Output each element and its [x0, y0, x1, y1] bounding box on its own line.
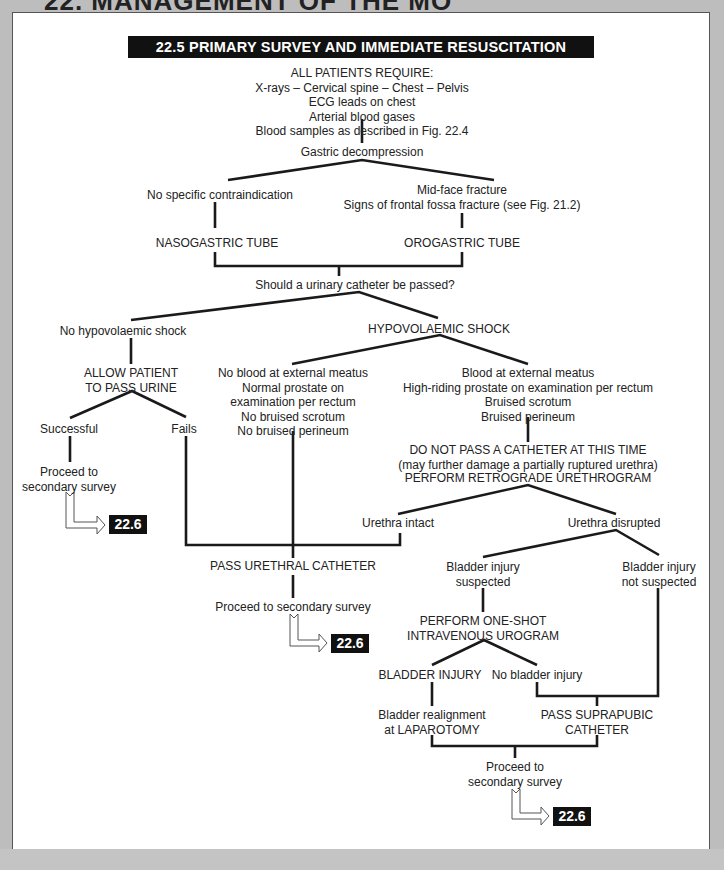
hollow-arrow-icon	[512, 789, 549, 825]
text-line: Blood samples as described in Fig. 22.4	[255, 124, 468, 139]
text-line: Arterial blood gases	[255, 110, 468, 125]
text-line: not suspected	[622, 575, 697, 590]
text-line: INTRAVENOUS UROGRAM	[407, 629, 559, 644]
midface-fracture: Mid-face fracture Signs of frontal fossa…	[344, 183, 581, 212]
text-line: Bruised scrotum	[403, 395, 653, 410]
successful: Successful	[40, 422, 98, 437]
bladder-injury-suspected: Bladder injury suspected	[446, 560, 519, 589]
gastric-decompression: Gastric decompression	[301, 145, 424, 160]
pass-urethral-catheter: PASS URETHRAL CATHETER	[210, 559, 376, 574]
ref-22-6-link[interactable]: 22.6	[553, 807, 591, 826]
proceed-secondary-survey-2: Proceed to secondary survey	[215, 600, 370, 615]
text-line: secondary survey	[468, 775, 562, 790]
no-specific-contraindication: No specific contraindication	[147, 188, 293, 203]
fails: Fails	[171, 422, 196, 437]
text-line: Signs of frontal fossa fracture (see Fig…	[344, 198, 581, 213]
urethra-intact: Urethra intact	[362, 516, 434, 531]
hypovolaemic-shock: HYPOVOLAEMIC SHOCK	[368, 322, 510, 337]
text-line: ALL PATIENTS REQUIRE:	[255, 66, 468, 81]
no-blood-criteria: No blood at external meatus Normal prost…	[218, 366, 368, 439]
text-line: Mid-face fracture	[344, 183, 581, 198]
proceed-secondary-survey-3: Proceed to secondary survey	[468, 760, 562, 789]
pass-suprapubic-catheter: PASS SUPRAPUBIC CATHETER	[541, 708, 653, 737]
text-line: X-rays – Cervical spine – Chest – Pelvis	[255, 81, 468, 96]
text-line: DO NOT PASS A CATHETER AT THIS TIME	[398, 443, 657, 458]
bladder-realignment-laparotomy: Bladder realignment at LAPAROTOMY	[378, 708, 485, 737]
text-line: Blood at external meatus	[403, 366, 653, 381]
ref-22-6-link[interactable]: 22.6	[109, 515, 147, 534]
allow-patient-pass-urine: ALLOW PATIENT TO PASS URINE	[84, 366, 178, 395]
text-line: Bladder injury	[446, 560, 519, 575]
nasogastric-tube: NASOGASTRIC TUBE	[156, 236, 278, 251]
text-line: PERFORM ONE-SHOT	[407, 614, 559, 629]
text-line: suspected	[446, 575, 519, 590]
text-line: High-riding prostate on examination per …	[403, 381, 653, 396]
no-bladder-injury: No bladder injury	[492, 668, 583, 683]
text-line: Normal prostate on	[218, 381, 368, 396]
no-hypovolaemic-shock: No hypovolaemic shock	[60, 324, 187, 339]
bladder-injury: BLADDER INJURY	[378, 668, 481, 683]
text-line: PASS SUPRAPUBIC	[541, 708, 653, 723]
text-line: Proceed to	[22, 465, 116, 480]
text-line: No bruised scrotum	[218, 410, 368, 425]
text-line: (may further damage a partially ruptured…	[398, 458, 657, 473]
text-line: ECG leads on chest	[255, 95, 468, 110]
text-line: No bruised perineum	[218, 424, 368, 439]
text-line: Bladder realignment	[378, 708, 485, 723]
text-line: secondary survey	[22, 480, 116, 495]
blood-criteria: Blood at external meatus High-riding pro…	[403, 366, 653, 424]
hollow-arrow-icon	[66, 492, 105, 534]
text-line: at LAPAROTOMY	[378, 723, 485, 738]
text-line: TO PASS URINE	[84, 381, 178, 396]
text-line: ALLOW PATIENT	[84, 366, 178, 381]
all-patients-require: ALL PATIENTS REQUIRE: X-rays – Cervical …	[255, 66, 468, 139]
section-title-22-5: 22.5 PRIMARY SURVEY AND IMMEDIATE RESUSC…	[128, 36, 594, 58]
do-not-pass-catheter: DO NOT PASS A CATHETER AT THIS TIME (may…	[398, 443, 657, 472]
one-shot-ivu: PERFORM ONE-SHOT INTRAVENOUS UROGRAM	[407, 614, 559, 643]
urethra-disrupted: Urethra disrupted	[568, 516, 661, 531]
text-line: CATHETER	[541, 723, 653, 738]
text-line: examination per rectum	[218, 395, 368, 410]
retrograde-urethrogram: PERFORM RETROGRADE URETHROGRAM	[405, 471, 652, 486]
text-line: Proceed to	[468, 760, 562, 775]
proceed-secondary-survey-1: Proceed to secondary survey	[22, 465, 116, 494]
ref-22-6-link[interactable]: 22.6	[331, 634, 369, 653]
text-line: No blood at external meatus	[218, 366, 368, 381]
orogastric-tube: OROGASTRIC TUBE	[404, 236, 520, 251]
text-line: Bladder injury	[622, 560, 697, 575]
text-line: Bruised perineum	[403, 410, 653, 425]
urinary-catheter-question: Should a urinary catheter be passed?	[255, 278, 454, 293]
hollow-arrow-icon	[290, 614, 327, 652]
bladder-injury-not-suspected: Bladder injury not suspected	[622, 560, 697, 589]
